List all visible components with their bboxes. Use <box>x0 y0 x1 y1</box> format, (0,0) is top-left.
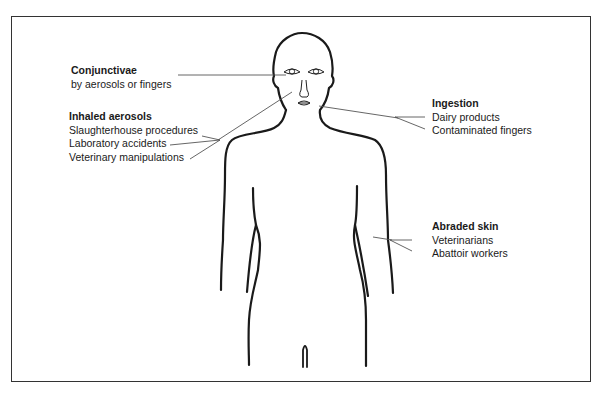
label-inhaled-aerosols: Inhaled aerosols Slaughterhouse procedur… <box>69 110 198 164</box>
label-item: Veterinary manipulations <box>69 151 198 165</box>
label-item: Veterinarians <box>432 234 508 248</box>
leader-inhaled-1 <box>202 136 220 140</box>
label-title: Inhaled aerosols <box>69 110 198 124</box>
label-item: Contaminated fingers <box>432 124 532 138</box>
human-body-figure <box>0 0 600 396</box>
label-title: Ingestion <box>432 97 532 111</box>
label-title: Conjunctivae <box>71 64 171 78</box>
leader-abraded-main <box>373 237 392 240</box>
label-item: Slaughterhouse procedures <box>69 124 198 138</box>
label-abraded-skin: Abraded skin Veterinarians Abattoir work… <box>432 220 508 261</box>
nose <box>300 80 309 97</box>
leader-ingestion-main <box>319 106 398 118</box>
label-ingestion: Ingestion Dairy products Contaminated fi… <box>432 97 532 138</box>
right-eye <box>308 69 324 74</box>
left-inner-arm <box>247 188 256 292</box>
label-item: by aerosols or fingers <box>71 78 171 92</box>
left-torso <box>249 225 260 365</box>
label-item: Dairy products <box>432 111 532 125</box>
leader-abraded-2 <box>390 240 412 251</box>
crotch <box>303 346 307 367</box>
label-item: Laboratory accidents <box>69 137 198 151</box>
body-outline <box>273 33 393 293</box>
mouth <box>298 101 310 105</box>
leader-ingestion-2 <box>395 117 425 129</box>
left-eye <box>284 69 300 74</box>
label-title: Abraded skin <box>432 220 508 234</box>
label-conjunctivae: Conjunctivae by aerosols or fingers <box>71 64 171 91</box>
label-item: Abattoir workers <box>432 247 508 261</box>
